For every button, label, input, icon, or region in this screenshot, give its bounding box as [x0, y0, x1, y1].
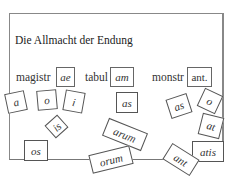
stem-monstr: monstr [152, 71, 184, 83]
ending-tile-o[interactable]: o [36, 89, 58, 111]
ending-tile-i[interactable]: i [62, 89, 85, 113]
ending-tile-a[interactable]: a [4, 90, 28, 114]
ending-slot-ant[interactable]: ant. [187, 67, 212, 87]
ending-slot-ae[interactable]: ae [56, 67, 75, 87]
stem-tabul: tabul [85, 71, 108, 83]
ending-tile-os[interactable]: os [24, 140, 48, 161]
ending-tile-as-center[interactable]: as [116, 92, 138, 113]
stem-magistr: magistr [16, 71, 51, 83]
diagram-title: Die Allmacht der Endung [15, 34, 133, 46]
ending-slot-am[interactable]: am [110, 67, 134, 87]
